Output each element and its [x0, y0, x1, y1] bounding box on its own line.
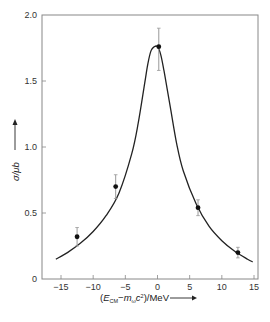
x-tick-label: 15 — [249, 282, 259, 292]
data-point — [156, 28, 161, 70]
data-point — [236, 247, 241, 258]
data-point — [113, 175, 118, 199]
x-tick-label: −15 — [53, 282, 68, 292]
x-tick-label: 0 — [155, 282, 160, 292]
x-tick-label: −5 — [120, 282, 130, 292]
x-tick-label: 10 — [217, 282, 227, 292]
y-axis-label: σ/μb — [10, 162, 21, 181]
x-tick-label: 5 — [187, 282, 192, 292]
y-tick-label: 1.5 — [24, 76, 37, 86]
data-point — [196, 200, 201, 216]
data-point-marker — [196, 205, 201, 210]
chart: −15−10−5051015 00.51.01.52.0 (ECM−mωc2)/… — [0, 0, 270, 322]
x-axis-label: (ECM−mωc2)/MeV — [100, 292, 170, 304]
y-tick-label: 0.5 — [24, 208, 37, 218]
y-tick-label: 0 — [32, 274, 37, 284]
y-axis-ticks: 00.51.01.52.0 — [24, 10, 46, 284]
y-axis-arrow-icon — [13, 119, 18, 150]
fit-curve — [56, 46, 253, 262]
data-point-marker — [156, 44, 161, 49]
data-point — [75, 228, 80, 246]
x-axis-ticks: −15−10−5051015 — [53, 275, 259, 292]
x-axis-arrow-icon — [170, 296, 197, 301]
fit-curve-path — [56, 46, 253, 262]
data-point-marker — [75, 234, 80, 239]
data-point-marker — [236, 250, 241, 255]
x-tick-label: −10 — [86, 282, 101, 292]
data-point-marker — [113, 184, 118, 189]
y-tick-label: 1.0 — [24, 142, 37, 152]
y-tick-label: 2.0 — [24, 10, 37, 20]
